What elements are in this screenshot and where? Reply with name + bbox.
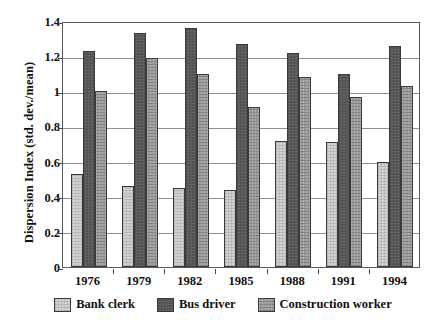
- bar-group: [268, 23, 319, 267]
- legend-swatch: [157, 298, 174, 312]
- x-axis-tick-label: 1994: [364, 274, 424, 289]
- y-axis-tick-label: 0.4: [20, 190, 60, 205]
- bar[interactable]: [122, 186, 134, 267]
- bar-chart: Dispersion Index (std. dev./mean) 00.20.…: [0, 0, 446, 331]
- bar[interactable]: [350, 97, 362, 267]
- x-axis-tick-mark: [267, 269, 268, 274]
- bar[interactable]: [401, 86, 413, 267]
- bar-group: [165, 23, 216, 267]
- y-axis-tick-label: 0.8: [20, 120, 60, 135]
- legend-label: Bank clerk: [76, 297, 135, 312]
- plot-area: [62, 22, 420, 268]
- bar-group: [370, 23, 421, 267]
- bar[interactable]: [326, 142, 338, 267]
- bar[interactable]: [299, 77, 311, 267]
- y-axis-tick-label: 1: [20, 85, 60, 100]
- y-axis-tick-label: 1.4: [20, 15, 60, 30]
- bar[interactable]: [83, 51, 95, 267]
- bar-group: [114, 23, 165, 267]
- bar[interactable]: [377, 162, 389, 267]
- y-axis-tick-label: 0: [20, 261, 60, 276]
- bar[interactable]: [146, 58, 158, 267]
- bar[interactable]: [389, 46, 401, 267]
- x-axis-tick-mark: [215, 269, 216, 274]
- legend-swatch: [54, 298, 71, 312]
- legend-item[interactable]: Bank clerk: [54, 297, 135, 312]
- y-axis-tick-label: 0.6: [20, 155, 60, 170]
- bar[interactable]: [248, 107, 260, 267]
- legend-item[interactable]: Bus driver: [157, 297, 236, 312]
- bar[interactable]: [185, 28, 197, 267]
- bar[interactable]: [71, 174, 83, 267]
- bar-group: [216, 23, 267, 267]
- bar[interactable]: [197, 74, 209, 267]
- bar[interactable]: [275, 141, 287, 268]
- legend-label: Construction worker: [280, 297, 392, 312]
- bar[interactable]: [236, 44, 248, 267]
- bar-group: [63, 23, 114, 267]
- x-axis-tick-mark: [369, 269, 370, 274]
- x-axis-tick-mark: [318, 269, 319, 274]
- legend-label: Bus driver: [179, 297, 236, 312]
- legend-swatch: [258, 298, 275, 312]
- legend-item[interactable]: Construction worker: [258, 297, 392, 312]
- bar[interactable]: [287, 53, 299, 267]
- y-axis-tick-mark: [58, 269, 63, 270]
- y-axis-tick-label: 1.2: [20, 50, 60, 65]
- bar[interactable]: [224, 190, 236, 267]
- legend: Bank clerkBus driverConstruction worker: [0, 297, 446, 312]
- x-axis-tick-mark: [113, 269, 114, 274]
- bar[interactable]: [95, 91, 107, 267]
- bar-group: [319, 23, 370, 267]
- bar[interactable]: [134, 33, 146, 267]
- x-axis-tick-mark: [164, 269, 165, 274]
- bar[interactable]: [173, 188, 185, 267]
- bar[interactable]: [338, 74, 350, 267]
- y-axis-tick-label: 0.2: [20, 225, 60, 240]
